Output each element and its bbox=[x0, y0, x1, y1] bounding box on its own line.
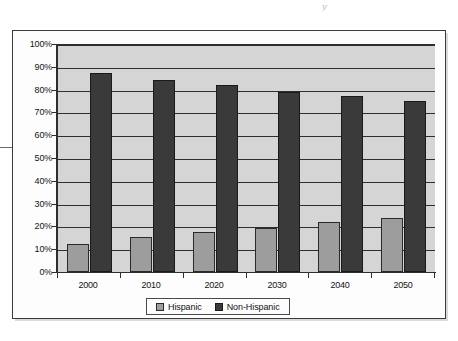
bar-hispanic-2000 bbox=[67, 244, 89, 272]
y-axis-tick bbox=[52, 249, 57, 250]
bar-non-hispanic-2030 bbox=[278, 92, 300, 272]
x-axis-label-2040: 2040 bbox=[318, 280, 362, 290]
x-axis-label-2050: 2050 bbox=[381, 280, 425, 290]
x-axis-label-2030: 2030 bbox=[255, 280, 299, 290]
legend-label: Hispanic bbox=[168, 302, 202, 312]
x-axis-tick bbox=[183, 273, 184, 278]
bar-hispanic-2040 bbox=[318, 222, 340, 272]
chart-legend: HispanicNon-Hispanic bbox=[146, 298, 290, 315]
bar-hispanic-2020 bbox=[193, 232, 215, 272]
y-axis-tick bbox=[52, 44, 57, 45]
bar-non-hispanic-2000 bbox=[90, 73, 112, 272]
bar-hispanic-2050 bbox=[381, 218, 403, 272]
bar-hispanic-2010 bbox=[130, 237, 152, 272]
bar-non-hispanic-2020 bbox=[216, 85, 238, 272]
chart-frame-shadow-right bbox=[446, 33, 448, 321]
x-axis-tick bbox=[120, 273, 121, 278]
y-axis-label: 80% bbox=[12, 86, 52, 95]
y-axis-tick bbox=[52, 158, 57, 159]
y-axis-label: 10% bbox=[12, 245, 52, 254]
x-axis-label-2010: 2010 bbox=[129, 280, 173, 290]
chart-frame-shadow-bottom bbox=[15, 319, 448, 321]
y-axis-tick bbox=[52, 204, 57, 205]
x-axis-tick bbox=[371, 273, 372, 278]
y-axis-label: 100% bbox=[12, 40, 52, 49]
x-axis-tick bbox=[246, 273, 247, 278]
y-axis-tick bbox=[52, 226, 57, 227]
legend-label: Non-Hispanic bbox=[227, 302, 280, 312]
y-axis: 0%10%20%30%40%50%60%70%80%90%100% bbox=[8, 44, 52, 272]
y-axis-label: 50% bbox=[12, 154, 52, 163]
x-axis-tick bbox=[308, 273, 309, 278]
legend-swatch-icon bbox=[215, 303, 223, 311]
x-axis-tick bbox=[434, 273, 435, 278]
bar-hispanic-2030 bbox=[255, 228, 277, 272]
y-axis-label: 90% bbox=[12, 63, 52, 72]
y-axis-tick bbox=[52, 181, 57, 182]
y-axis-tick bbox=[52, 272, 57, 273]
legend-entry-hispanic: Hispanic bbox=[156, 302, 202, 312]
y-axis-label: 0% bbox=[12, 268, 52, 277]
y-axis-label: 40% bbox=[12, 177, 52, 186]
bar-non-hispanic-2010 bbox=[153, 80, 175, 272]
y-axis-tick bbox=[52, 135, 57, 136]
bar-non-hispanic-2050 bbox=[404, 101, 426, 272]
y-axis-tick bbox=[52, 67, 57, 68]
legend-swatch-icon bbox=[156, 303, 164, 311]
x-axis-label-2020: 2020 bbox=[192, 280, 236, 290]
y-axis-tick bbox=[52, 112, 57, 113]
y-axis-label: 30% bbox=[12, 200, 52, 209]
y-axis-label: 60% bbox=[12, 131, 52, 140]
x-axis-tick bbox=[57, 273, 58, 278]
bar-non-hispanic-2040 bbox=[341, 96, 363, 272]
legend-entry-non-hispanic: Non-Hispanic bbox=[215, 302, 280, 312]
x-axis-label-2000: 2000 bbox=[66, 280, 110, 290]
y-axis-label: 20% bbox=[12, 222, 52, 231]
y-axis-tick bbox=[52, 90, 57, 91]
scan-artifact-top-mark: y bbox=[322, 1, 336, 11]
x-axis: 200020102020203020402050 bbox=[57, 273, 436, 291]
y-axis-label: 70% bbox=[12, 108, 52, 117]
bars-layer bbox=[58, 45, 435, 272]
